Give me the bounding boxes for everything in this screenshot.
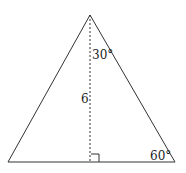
triangle-outline <box>8 15 175 162</box>
triangle-diagram: 30° 6 60° <box>0 0 186 173</box>
apex-angle-label: 30° <box>92 48 113 62</box>
base-angle-label: 60° <box>150 149 171 163</box>
right-angle-marker <box>91 154 99 162</box>
altitude-label: 6 <box>81 92 89 106</box>
